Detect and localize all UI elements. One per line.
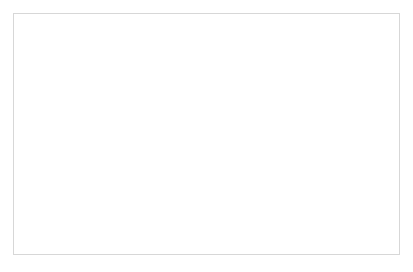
chart-figure: 0200040006000800010000120002000200120022…	[0, 0, 413, 272]
figure-border	[13, 13, 400, 255]
